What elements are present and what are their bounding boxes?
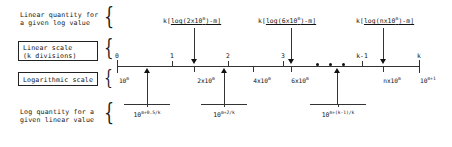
logtick-4x10m (253, 66, 254, 72)
annotation-2x10m: k[log(2x10m)-m] (163, 17, 221, 25)
linear-tick-1: 1 (170, 53, 174, 60)
label-linear-quantity: Linear quantity fora given log value (20, 11, 98, 27)
label-log-quantity-line1: Log quantity for a (20, 108, 94, 116)
log-label-nx10m: nx10m (383, 77, 401, 84)
linear-tick-k: k (417, 53, 421, 60)
axis-endcap-right (419, 60, 420, 73)
logtick-6x10m (291, 66, 292, 72)
label-linear-quantity-line1: Linear quantity for (20, 11, 98, 19)
brace-linear-quantity-icon: { (104, 4, 114, 28)
annotation-nx10m: k[log(nx10m)-m] (356, 17, 414, 25)
box-linear-scale-line1: Linear scale (23, 44, 72, 52)
logtick-2x10m (194, 66, 195, 72)
label-linear-quantity-line2: a given log value (20, 19, 90, 27)
figure-canvas: Linear quantity fora given log value { L… (0, 0, 452, 147)
brace-linear-scale-icon: { (104, 38, 114, 60)
log-label-10m: 10m (119, 77, 129, 84)
log-label-2x10m: 2x10m (197, 77, 215, 84)
bottom-annotation-k1k: 10m+(k-1)/k (322, 112, 355, 119)
axis-line (117, 66, 420, 67)
linear-tick-3: 3 (281, 53, 285, 60)
box-log-scale: Logarithmic scale (18, 72, 98, 86)
log-label-10m1: 10m+1 (420, 77, 436, 84)
box-linear-scale-line2: (k divisions) (23, 52, 77, 60)
annotation-2x10m-underlined: log(2x10m)-m] (171, 17, 221, 25)
linear-tick-k-minus-1: k-1 (356, 53, 368, 60)
box-log-scale-line1: Logarithmic scale (23, 76, 93, 84)
annotation-nx10m-underlined: log(nx10m)-m] (364, 17, 414, 25)
label-log-quantity-line2: given linear value (20, 116, 94, 124)
brace-log-quantity-icon: { (104, 100, 114, 124)
label-log-quantity: Log quantity for agiven linear value (20, 108, 94, 124)
box-linear-scale: Linear scale(k divisions) (18, 41, 98, 61)
axis-endcap-left (117, 60, 118, 73)
linear-tick-2: 2 (226, 53, 230, 60)
annotation-6x10m-underlined: log(6x10m)-m] (266, 17, 316, 25)
log-label-4x10m: 4x10m (253, 77, 271, 84)
annotation-6x10m: k[log(6x10m)-m] (258, 17, 316, 25)
logtick-nx10m (383, 66, 384, 72)
bottom-annotation-0p5k: 10m+0.5/k (133, 112, 160, 119)
bottom-annotation-2k: 10m+2/k (213, 112, 235, 119)
brace-log-scale-icon: { (104, 67, 113, 87)
log-label-6x10m: 6x10m (291, 77, 309, 84)
linear-tick-0: 0 (115, 53, 119, 60)
